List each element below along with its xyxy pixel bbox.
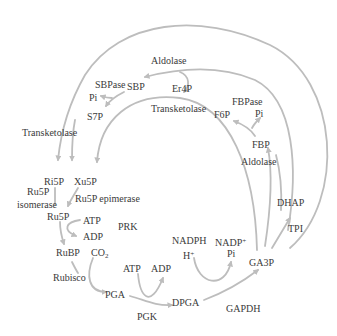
pathway-arrows	[0, 0, 337, 336]
enzyme-transketolase-left: Transketolase	[22, 128, 77, 138]
arrow-ru5p-rubp	[60, 222, 64, 244]
arrow-dpga-ga3p	[204, 270, 258, 300]
metabolite-co2: CO2	[91, 248, 108, 261]
arrow-atp-adp-prk	[67, 220, 80, 236]
enzyme-pgk: PGK	[137, 312, 157, 322]
enzyme-ru5p-epimerase: Ru5P epimerase	[75, 194, 140, 204]
enzyme-sbpase: SBPase	[95, 80, 126, 90]
metabolite-pga: PGA	[105, 290, 125, 300]
arc-outer-branch	[72, 120, 75, 160]
nadp-main: NADP	[215, 237, 242, 248]
metabolite-f6p: F6P	[214, 110, 230, 120]
arrow-nadph-nadp	[194, 258, 231, 281]
enzyme-fbpase: FBPase	[232, 97, 263, 107]
arrow-pga-dpga	[130, 296, 172, 305]
metabolite-ru5p: Ru5P	[47, 212, 69, 222]
metabolite-ga3p: GA3P	[249, 258, 274, 268]
h-superscript: +	[190, 250, 194, 258]
metabolite-adp-pgk: ADP	[151, 264, 171, 274]
metabolite-dhap: DHAP	[277, 198, 304, 208]
metabolite-atp-prk: ATP	[83, 216, 101, 226]
metabolite-dpga: DPGA	[172, 298, 199, 308]
co2-subscript: 2	[105, 252, 109, 260]
arc-aldolase-sbp	[145, 70, 293, 231]
nadp-superscript: +	[242, 237, 246, 245]
enzyme-aldolase-top: Aldolase	[151, 56, 187, 66]
metabolite-pi-sbp: Pi	[89, 93, 97, 103]
metabolite-rubp: RuBP	[56, 248, 80, 258]
metabolite-pi-fbp: Pi	[255, 109, 263, 119]
enzyme-ru5p-isomerase-line2: isomerase	[17, 200, 57, 210]
metabolite-er4p: Er4P	[172, 84, 192, 94]
arrow-sbp-pi	[101, 96, 112, 98]
metabolite-adp-prk: ADP	[83, 232, 103, 242]
arrow-sbp-s7p	[106, 92, 124, 106]
metabolite-pi-gapdh: Pi	[227, 249, 235, 259]
metabolite-sbp: SBP	[127, 82, 145, 92]
metabolite-h-plus: H+	[183, 249, 194, 261]
enzyme-prk: PRK	[118, 222, 137, 232]
enzyme-rubisco: Rubisco	[53, 273, 86, 283]
enzyme-transketolase-mid: Transketolase	[151, 104, 206, 114]
metabolite-ri5p: Ri5P	[44, 177, 64, 187]
metabolite-fbp: FBP	[252, 140, 270, 150]
arrow-atp-adp-pgk	[138, 274, 163, 297]
metabolite-nadp-plus: NADP+	[215, 236, 246, 248]
enzyme-gapdh: GAPDH	[226, 304, 260, 314]
metabolite-atp-pgk: ATP	[123, 264, 141, 274]
enzyme-aldolase-right: Aldolase	[241, 157, 277, 167]
arrow-fbp-pi	[252, 118, 260, 128]
arrow-co2-pga	[89, 258, 106, 292]
metabolite-nadph: NADPH	[172, 236, 206, 246]
enzyme-ru5p-isomerase-line1: Ru5P	[27, 187, 49, 197]
metabolite-xu5p: Xu5P	[74, 177, 97, 187]
metabolite-s7p: S7P	[87, 112, 103, 122]
enzyme-tpi: TPI	[288, 224, 303, 234]
co2-main: CO	[91, 247, 105, 258]
calvin-cycle-diagram: Aldolase SBPase Transketolase Transketol…	[0, 0, 337, 336]
